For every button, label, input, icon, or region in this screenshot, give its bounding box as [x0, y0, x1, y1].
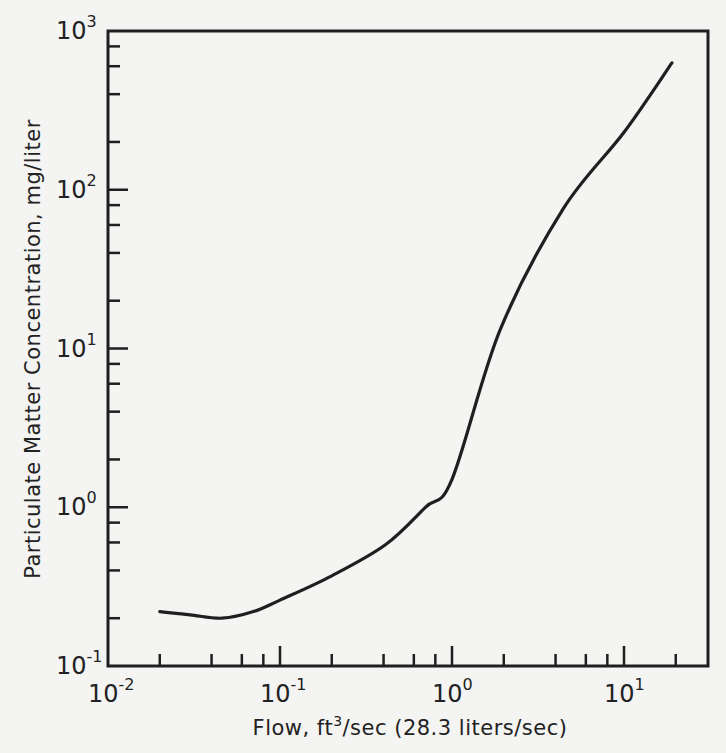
- chart: 10-1100101102103 10-210-1100101 Particul…: [0, 0, 726, 753]
- x-axis-tick-labels: 10-210-1100101: [88, 675, 645, 708]
- x-axis-ticks: [160, 646, 676, 666]
- x-tick-label: 101: [604, 675, 645, 708]
- plot-frame: [108, 31, 708, 666]
- x-axis-title: Flow, ft3/sec (28.3 liters/sec): [253, 713, 568, 740]
- y-tick-label: 101: [56, 330, 97, 363]
- y-tick-label: 103: [56, 12, 97, 45]
- x-tick-label: 10-1: [260, 675, 307, 708]
- y-axis-title: Particulate Matter Concentration, mg/lit…: [21, 119, 45, 579]
- y-axis-ticks: [108, 46, 128, 618]
- data-curve: [160, 63, 672, 618]
- y-tick-label: 10-1: [56, 647, 103, 680]
- y-axis-tick-labels: 10-1100101102103: [56, 12, 103, 680]
- x-tick-label: 100: [432, 675, 473, 708]
- plot-border: [108, 31, 708, 666]
- y-tick-label: 100: [56, 488, 97, 521]
- x-tick-label: 10-2: [88, 675, 135, 708]
- y-tick-label: 102: [56, 171, 97, 204]
